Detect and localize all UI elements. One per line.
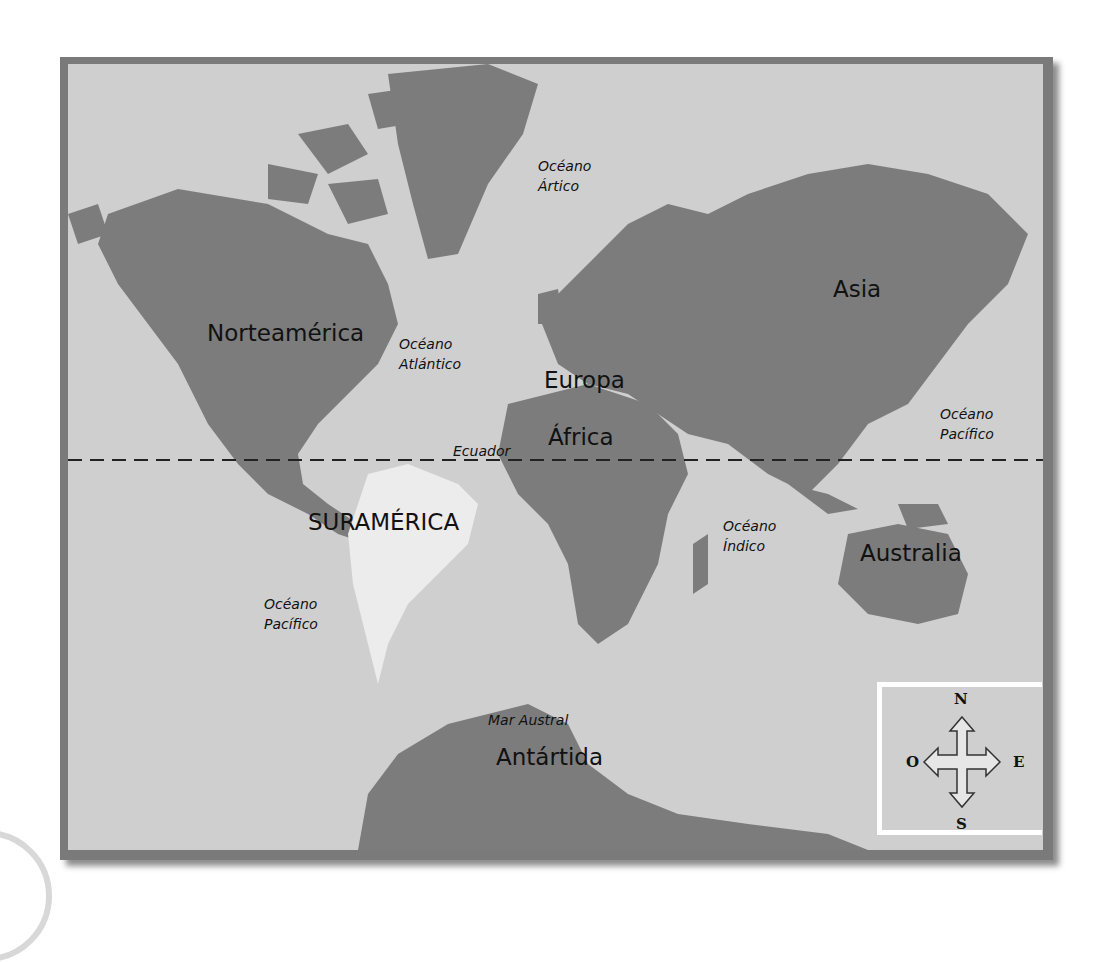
compass-west: O [906,753,919,771]
australia-shape [838,524,968,624]
label-north-america: Norteamérica [207,320,364,346]
africa-shape [498,384,688,644]
north-america-shape [98,189,398,544]
antarctica-shape [358,704,868,850]
label-europe: Europa [544,367,625,393]
label-pacific-ocean-west: Océano Pacífico [264,594,318,634]
label-australia: Australia [860,540,962,566]
south-america-shape [348,464,478,684]
label-antarctica: Antártida [496,744,603,770]
label-asia: Asia [833,276,881,302]
label-atlantic-ocean: Océano Atlántico [399,334,461,374]
greenland [388,64,538,259]
label-south-america: SURAMÉRICA [308,509,459,535]
label-africa: África [548,424,614,450]
compass-north: N [954,690,968,708]
compass-arrows-icon [922,707,1002,817]
decorative-arc [0,830,52,962]
label-indian-ocean: Océano Índico [723,516,776,556]
label-pacific-ocean-east: Océano Pacífico [940,404,994,444]
label-southern-ocean: Mar Austral [488,710,568,730]
label-arctic-ocean: Océano Ártico [538,156,591,196]
compass-south: S [956,815,967,833]
label-equator: Ecuador [453,441,510,461]
compass-east: E [1013,753,1024,771]
compass-rose: N S O E [877,682,1042,835]
